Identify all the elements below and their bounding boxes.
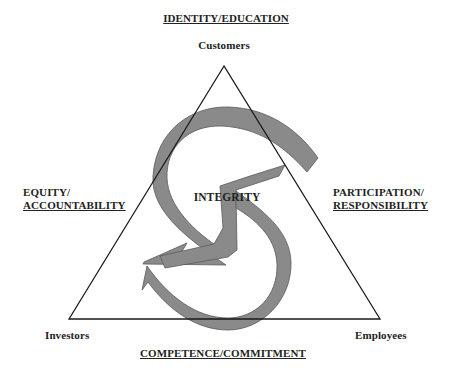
bottom-theme-label: COMPETENCE/COMMITMENT xyxy=(140,347,306,360)
center-integrity-label: INTEGRITY xyxy=(194,191,261,204)
top-theme-label: IDENTITY/EDUCATION xyxy=(163,12,289,25)
left-theme-line2: ACCOUNTABILITY xyxy=(23,199,126,212)
right-theme-line2: RESPONSIBILITY xyxy=(333,199,428,212)
vertex-investors-label: Investors xyxy=(45,329,89,342)
left-theme-label: EQUITY/ ACCOUNTABILITY xyxy=(23,186,126,212)
left-theme-line1: EQUITY/ xyxy=(23,186,126,199)
integrity-triangle-diagram: IDENTITY/EDUCATION Customers EQUITY/ ACC… xyxy=(0,0,449,381)
right-theme-label: PARTICIPATION/ RESPONSIBILITY xyxy=(333,186,428,212)
right-theme-line1: PARTICIPATION/ xyxy=(333,186,428,199)
vertex-employees-label: Employees xyxy=(355,329,407,342)
s-arrow-icon xyxy=(142,107,318,330)
vertex-customers-label: Customers xyxy=(198,39,250,52)
